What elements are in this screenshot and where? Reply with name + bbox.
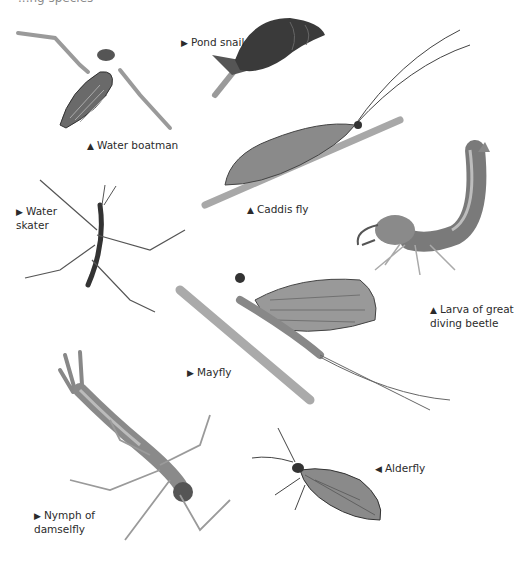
label-caddis-fly: ▲Caddis fly xyxy=(247,203,309,217)
illustrated-page: ...ng species xyxy=(0,0,521,572)
label-diving-beetle-larva: ▲Larva of great diving beetle xyxy=(430,303,514,330)
illustrations xyxy=(0,0,521,572)
water-skater-illustration xyxy=(25,180,185,312)
label-mayfly: ▶Mayfly xyxy=(187,366,231,380)
label-pond-snail: ▶Pond snail xyxy=(181,36,244,50)
diving-beetle-larva-illustration xyxy=(358,142,490,275)
pond-snail-illustration xyxy=(212,18,325,95)
label-water-skater: ▶Water skater xyxy=(16,205,57,232)
label-water-boatman: ▲Water boatman xyxy=(87,139,178,153)
label-damselfly-nymph: ▶Nymph of damselfly xyxy=(34,509,95,536)
label-alderfly: ◀Alderfly xyxy=(375,462,425,476)
alderfly-illustration xyxy=(252,428,381,520)
water-boatman-illustration xyxy=(18,33,170,128)
mayfly-illustration xyxy=(180,273,450,410)
